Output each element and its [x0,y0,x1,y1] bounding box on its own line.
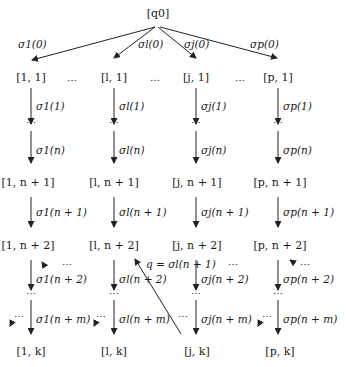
root-edge-label-1: σ1(0) [18,38,47,50]
svg-text:⋯: ⋯ [300,259,310,270]
svg-text:[p, k]: [p, k] [265,345,294,358]
svg-text:σp(n): σp(n) [283,144,312,156]
ellipsis-row1-c: … [235,72,245,83]
svg-text:σl(1): σl(1) [119,100,144,112]
svg-text:σj(n + m): σj(n + m) [201,313,252,325]
svg-text:[l, n + 2]: [l, n + 2] [89,239,138,252]
svg-text:⋯: ⋯ [26,288,36,299]
svg-text:[p, n + 1]: [p, n + 1] [254,176,307,189]
ellipsis-row1-b: … [150,72,160,83]
node-1-1: [1, 1] [16,71,46,84]
svg-text:[p, n + 2]: [p, n + 2] [254,239,307,252]
svg-text:[1, n + 1]: [1, n + 1] [2,176,55,189]
cross-edge-label: q = σl(n + 1) [146,258,216,270]
svg-text:[1, k]: [1, k] [16,345,45,358]
svg-text:σ1(n + m): σ1(n + m) [36,313,90,325]
svg-text:⋯: ⋯ [273,288,283,299]
svg-text:⋯: ⋯ [109,288,119,299]
svg-text:[j, k]: [j, k] [184,345,210,358]
svg-text:⋯: ⋯ [191,117,201,128]
svg-text:⋯: ⋯ [228,259,238,270]
svg-text:σ1(1): σ1(1) [36,100,65,112]
svg-text:⋯: ⋯ [178,311,188,322]
svg-text:σj(n + 1): σj(n + 1) [201,206,249,218]
node-j-1: [j, 1] [183,71,209,84]
root-edge-1 [32,27,155,60]
svg-text:⋯: ⋯ [96,311,106,322]
svg-text:σl(n + m): σl(n + m) [119,313,170,325]
svg-text:⋯: ⋯ [273,117,283,128]
root-edge-label-j: σj(0) [184,38,209,50]
svg-text:σ1(n + 1): σ1(n + 1) [36,206,87,218]
svg-text:σp(n + 1): σp(n + 1) [283,206,334,218]
svg-text:⋯: ⋯ [26,117,36,128]
node-p-1: [p, 1] [263,71,293,84]
svg-text:σl(n + 2): σl(n + 2) [119,273,167,285]
svg-text:[l, n + 1]: [l, n + 1] [89,176,138,189]
svg-text:[1, n + 2]: [1, n + 2] [2,239,55,252]
svg-text:⋯: ⋯ [62,259,72,270]
svg-text:[l, k]: [l, k] [101,345,127,358]
svg-text:σl(n + 1): σl(n + 1) [119,206,167,218]
svg-text:σj(n + 2): σj(n + 2) [201,273,249,285]
svg-text:⋯: ⋯ [262,311,272,322]
automaton-diagram: [q0] σ1(0) σl(0) σj(0) σp(0) [1, 1] … [l… [0,0,346,367]
root-edge-label-l: σl(0) [138,38,163,50]
svg-text:[j, n + 1]: [j, n + 1] [172,176,221,189]
svg-text:σp(n + 2): σp(n + 2) [283,273,334,285]
svg-text:[j, n + 2]: [j, n + 2] [172,239,221,252]
ellipsis-row1-a: … [67,72,77,83]
svg-text:σ1(n + 2): σ1(n + 2) [36,273,87,285]
svg-text:σp(n + m): σp(n + m) [283,313,337,325]
svg-text:σj(1): σj(1) [201,100,226,112]
svg-text:⋯: ⋯ [14,311,24,322]
node-l-1: [l, 1] [101,71,127,84]
svg-text:⋯: ⋯ [109,117,119,128]
svg-text:σj(n): σj(n) [201,144,226,156]
svg-text:σl(n): σl(n) [119,144,144,156]
root-edge-label-p: σp(0) [250,38,279,50]
svg-text:σ1(n): σ1(n) [36,144,65,156]
root-node: [q0] [147,7,170,20]
svg-text:⋯: ⋯ [191,288,201,299]
svg-text:σp(1): σp(1) [283,100,312,112]
